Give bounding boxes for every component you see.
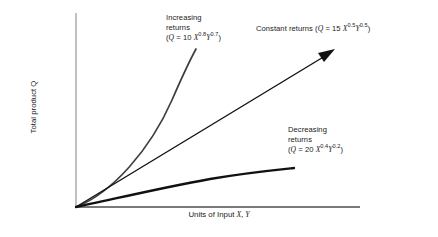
x-axis-title-prefix: Units of Input	[188, 210, 236, 219]
formula-y-exponent: 0.7	[211, 32, 219, 38]
formula-y-exponent: 0.5	[360, 22, 368, 28]
formula-y-exponent: 0.2	[333, 144, 341, 150]
formula-equals-coefficient: = 20	[296, 145, 316, 154]
constant-returns-arrowhead	[318, 49, 335, 62]
x-axis-title: Units of Input X, Y	[0, 210, 438, 219]
y-axis-title: Total product Q	[29, 81, 38, 134]
formula-close-paren: )	[368, 24, 371, 33]
formula-equals-coefficient: = 15	[323, 24, 343, 33]
returns-to-scale-chart: Increasing returns (Q = 10 X0.8Y0.7) Con…	[0, 0, 438, 237]
annotation-decreasing-line1: Decreasing	[288, 125, 343, 135]
formula-close-paren: )	[341, 145, 344, 154]
annotation-increasing-returns: Increasing returns (Q = 10 X0.8Y0.7)	[166, 13, 221, 44]
annotation-decreasing-returns: Decreasing returns (Q = 20 X0.4Y0.2)	[288, 125, 343, 156]
annotation-increasing-formula: (Q = 10 X0.8Y0.7)	[166, 33, 221, 43]
annotation-increasing-line1: Increasing	[166, 13, 221, 23]
formula-equals-coefficient: = 10	[174, 33, 194, 42]
annotation-constant-returns: Constant returns (Q = 15 X0.5Y0.5)	[256, 24, 370, 34]
x-axis-title-variables: X, Y	[237, 210, 250, 219]
curve-increasing-returns	[76, 49, 196, 207]
formula-close-paren: )	[219, 33, 222, 42]
annotation-decreasing-formula: (Q = 20 X0.4Y0.2)	[288, 145, 343, 155]
annotation-constant-line1: Constant returns	[256, 24, 315, 33]
